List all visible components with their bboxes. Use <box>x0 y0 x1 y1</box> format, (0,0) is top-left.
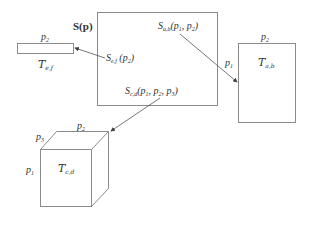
ef-name-sub: e,f <box>45 64 53 71</box>
s-ef-args-end: ) <box>131 52 134 63</box>
tensor-ef-box <box>18 44 74 54</box>
label-s-ab: Sa,b(p1, p2) <box>158 21 198 32</box>
tensor-ab-dim-top: p2 <box>261 32 269 43</box>
ab-name-sub: a,b <box>265 62 274 69</box>
cd-dim-depth-sub: 3 <box>41 137 44 143</box>
cd-dim-top-sub: 2 <box>82 126 85 132</box>
cd-dim-left-sub: 1 <box>31 170 34 176</box>
s-cd-args: (p <box>137 85 145 96</box>
tensor-ef-name: Te,f <box>38 59 53 71</box>
cd-name-sub: c,d <box>65 168 74 175</box>
s-ab-args-mid: , p <box>182 20 192 31</box>
s-cd-args-end: ) <box>175 85 178 96</box>
tensor-cd-dim-depth: p3 <box>36 132 44 143</box>
s-cd-args-mid2: , p <box>162 85 172 96</box>
arrow-to-tensor-ef <box>75 48 105 58</box>
tensor-ab-dim-left: p1 <box>225 58 233 69</box>
s-ab-args-end: ) <box>195 20 198 31</box>
label-s-cd: Sc,d(p1, p2, p3) <box>125 86 178 97</box>
tensor-cd-cube <box>41 132 109 207</box>
s-ab-args: (p <box>171 20 179 31</box>
main-box-title: S(p) <box>73 21 93 32</box>
tensor-ab-name: Ta,b <box>258 57 275 69</box>
tensor-ef-dim-top: p2 <box>41 32 49 43</box>
ab-dim-left-sub: 1 <box>230 63 233 69</box>
tensor-cd-dim-top: p2 <box>77 121 85 132</box>
tensor-cd-dim-left: p1 <box>26 165 34 176</box>
ef-dim-top-sub: 2 <box>46 37 49 43</box>
arrow-to-tensor-cd <box>111 98 160 131</box>
label-s-ef: Se,f (p2) <box>106 53 134 64</box>
ab-dim-top-sub: 2 <box>266 37 269 43</box>
tensor-ab-box <box>239 44 296 123</box>
s-ab-sub: a,b <box>163 26 171 32</box>
tensor-cd-name: Tc,d <box>58 163 74 175</box>
s-ef-args: (p <box>117 52 128 63</box>
s-cd-args-mid: , p <box>149 85 159 96</box>
